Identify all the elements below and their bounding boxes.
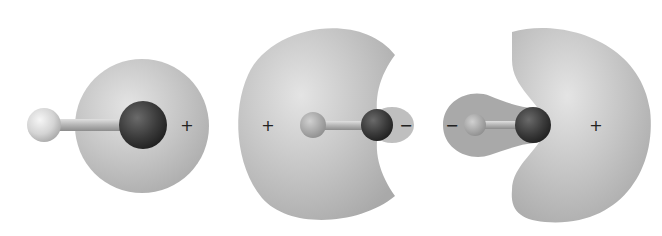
light-atom: [27, 108, 61, 142]
light-atom: [300, 112, 326, 138]
phase-sign-minus: −: [399, 116, 412, 135]
phase-sign-plus: +: [261, 116, 274, 135]
orbital-panel-1: +: [27, 59, 209, 193]
dark-atom: [515, 107, 551, 143]
light-atom: [464, 114, 486, 136]
dark-atom: [361, 109, 393, 141]
phase-sign-plus: +: [180, 116, 193, 135]
dark-atom: [119, 101, 167, 149]
orbital-diagram: + + − − +: [0, 0, 662, 236]
orbital-panel-2: + −: [238, 28, 414, 220]
phase-sign-plus: +: [589, 116, 602, 135]
orbital-panel-3: − +: [443, 28, 651, 222]
phase-sign-minus: −: [445, 116, 458, 135]
